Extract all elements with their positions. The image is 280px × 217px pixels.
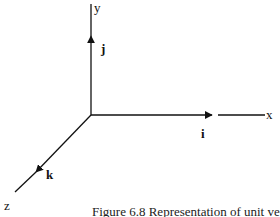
x-axis-label: x [266,108,273,121]
i-unit-vector-label: i [201,127,205,140]
z-axis-label: z [4,199,10,212]
k-unit-vector-label: k [46,168,53,181]
y-axis-label: y [94,1,101,14]
j-unit-vector-label: j [101,42,105,55]
coordinate-axes-diagram [0,0,280,217]
figure-caption: Figure 6.8 Representation of unit vector… [92,204,280,217]
